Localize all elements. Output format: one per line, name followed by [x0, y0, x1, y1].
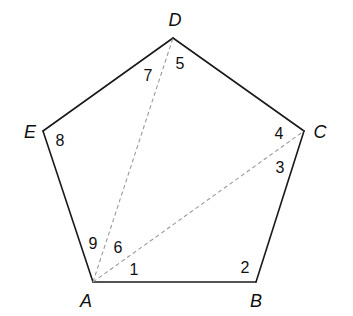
- pentagon-diagram: ABCDE 123456789: [0, 0, 353, 316]
- edge-ea: [43, 131, 93, 282]
- edge-de: [43, 38, 173, 131]
- edge-bc: [256, 131, 304, 282]
- angle-label-8: 8: [56, 132, 65, 149]
- vertex-label-a: A: [79, 291, 92, 311]
- angle-label-3: 3: [276, 159, 285, 176]
- pentagon-edges: [43, 38, 304, 282]
- angle-labels: 123456789: [56, 55, 285, 278]
- vertex-label-c: C: [314, 122, 328, 142]
- angle-label-2: 2: [241, 259, 250, 276]
- edge-cd: [173, 38, 304, 131]
- vertex-label-d: D: [169, 10, 182, 30]
- angle-label-5: 5: [176, 55, 185, 72]
- angle-label-1: 1: [130, 261, 139, 278]
- vertex-label-e: E: [24, 122, 37, 142]
- diagonal-ac: [93, 131, 304, 282]
- diagonal-ad: [93, 38, 173, 282]
- angle-label-4: 4: [275, 125, 284, 142]
- angle-label-7: 7: [144, 67, 153, 84]
- dashed-diagonals: [93, 38, 304, 282]
- vertex-label-b: B: [250, 291, 262, 311]
- angle-label-6: 6: [114, 239, 123, 256]
- angle-label-9: 9: [89, 235, 98, 252]
